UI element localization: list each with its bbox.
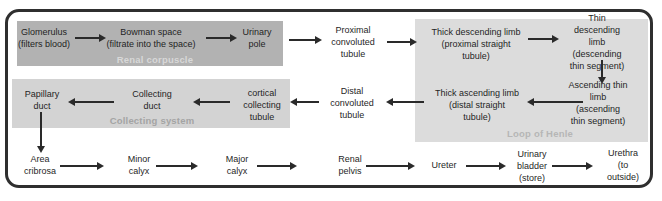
arrow-major-calyx-to-renal-pelvis-icon xyxy=(257,161,297,170)
node-thick-descending-limb: Thick descending limb (proximal straight… xyxy=(431,26,520,62)
arrow-bowman-to-urinary-pole-icon xyxy=(206,33,237,42)
node-urethra: Urethra (to outside) xyxy=(604,147,643,183)
node-cortical-collecting-tubule: cortical collecting tubule xyxy=(243,87,281,123)
node-papillary-duct: Papillary duct xyxy=(25,88,60,112)
arrow-glomerulus-to-bowman-icon xyxy=(75,33,106,42)
arrow-proximal-to-thick-descending-icon xyxy=(387,37,417,46)
node-collecting-duct: Collecting duct xyxy=(132,88,172,112)
arrow-thin-descending-to-ascending-thin-icon xyxy=(597,60,606,84)
node-ureter: Ureter xyxy=(431,159,456,171)
node-glomerulus: Glomerulus (filters blood) xyxy=(18,26,70,50)
arrow-area-cribrosa-to-minor-calyx-icon xyxy=(60,161,104,170)
arrow-thick-ascending-to-distal-icon xyxy=(386,97,424,106)
arrow-cortical-to-collecting-duct-icon xyxy=(193,97,230,106)
node-distal-convoluted-tubule: Distal convoluted tubule xyxy=(330,85,374,121)
node-thick-ascending-limb: Thick ascending limb (distal straight tu… xyxy=(435,87,519,123)
node-minor-calyx: Minor calyx xyxy=(128,153,151,177)
node-bowman-space: Bowman space (filtrate into the space) xyxy=(106,26,195,50)
arrow-ureter-to-bladder-icon xyxy=(466,161,506,170)
arrow-distal-to-cortical-icon xyxy=(290,97,319,106)
arrow-collecting-duct-to-papillary-icon xyxy=(68,97,114,106)
node-area-cribrosa: Area cribrosa xyxy=(24,153,56,177)
renal-corpuscle-label: Renal corpuscle xyxy=(117,54,193,65)
loop-of-henle-label: Loop of Henle xyxy=(507,128,573,139)
node-urinary-bladder: Urinary bladder (store) xyxy=(517,148,547,184)
arrow-ascending-thin-to-thick-ascending-icon xyxy=(527,97,583,106)
arrow-bladder-to-urethra-icon xyxy=(552,161,593,170)
collecting-system-label: Collecting system xyxy=(110,115,195,126)
arrow-renal-pelvis-to-ureter-icon xyxy=(366,161,415,170)
node-renal-pelvis: Renal pelvis xyxy=(338,153,362,177)
arrow-urinary-pole-to-proximal-icon xyxy=(289,35,322,44)
arrow-thick-descending-to-thin-descending-icon xyxy=(528,34,559,43)
arrow-papillary-to-area-cribrosa-icon xyxy=(36,112,45,153)
nephron-flow-diagram: Renal corpuscle Collecting system Loop o… xyxy=(0,0,662,201)
arrow-minor-to-major-calyx-icon xyxy=(156,161,198,170)
node-proximal-convoluted-tubule: Proximal convoluted tubule xyxy=(331,24,375,60)
node-urinary-pole: Urinary pole xyxy=(242,26,271,50)
node-major-calyx: Major calyx xyxy=(226,153,249,177)
